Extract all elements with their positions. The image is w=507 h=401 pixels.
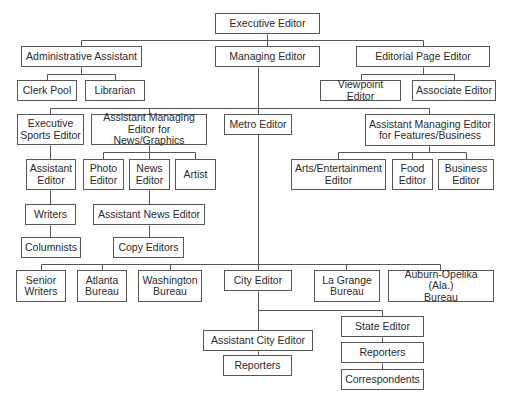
org-node-admin: Administrative Assistant: [21, 46, 142, 67]
org-node-asst-news: Assistant News Editor: [93, 204, 205, 225]
org-node-washington: Washington Bureau: [138, 270, 202, 302]
org-node-asst-ed: Assistant Editor: [26, 159, 76, 190]
org-node-copy: Copy Editors: [113, 237, 184, 258]
org-node-photo: Photo Editor: [83, 159, 124, 190]
org-node-editorial: Editorial Page Editor: [356, 46, 490, 67]
org-node-associate: Associate Editor: [412, 80, 496, 101]
org-node-business: Business Editor: [438, 159, 494, 190]
org-node-city: City Editor: [224, 270, 292, 291]
org-node-metro: Metro Editor: [224, 114, 292, 135]
org-node-atlanta: Atlanta Bureau: [77, 270, 127, 302]
org-chart: Executive EditorAdministrative Assistant…: [0, 0, 507, 401]
org-node-correspondents: Correspondents: [341, 369, 424, 390]
org-node-managing: Managing Editor: [215, 46, 320, 67]
org-node-viewpoint: Viewpoint Editor: [320, 80, 401, 101]
org-node-artist: Artist: [175, 159, 216, 190]
org-node-librarian: Librarian: [85, 80, 145, 101]
org-node-state: State Editor: [341, 316, 424, 337]
org-node-exec: Executive Editor: [215, 13, 320, 34]
org-node-ame-news: Assistant Managing Editor for News/Graph…: [91, 114, 207, 145]
org-node-ame-feat: Assistant Managing Editor for Features/B…: [365, 114, 495, 146]
org-node-asst-city: Assistant City Editor: [203, 330, 313, 351]
org-node-senior: Senior Writers: [16, 270, 66, 302]
org-node-food: Food Editor: [392, 159, 433, 190]
org-node-clerk: Clerk Pool: [17, 80, 77, 101]
org-node-sports: Executive Sports Editor: [17, 114, 84, 145]
org-node-auburn: Auburn-Opelika (Ala.) Bureau: [388, 270, 494, 302]
org-node-columnists: Columnists: [21, 237, 81, 258]
org-node-lagrange: La Grange Bureau: [314, 270, 380, 302]
org-node-arts: Arts/Entertainment Editor: [291, 159, 386, 190]
org-node-state-reporters: Reporters: [341, 342, 424, 363]
org-node-writers: Writers: [25, 204, 76, 225]
org-node-news: News Editor: [129, 159, 170, 190]
org-node-city-reporters: Reporters: [223, 355, 292, 376]
